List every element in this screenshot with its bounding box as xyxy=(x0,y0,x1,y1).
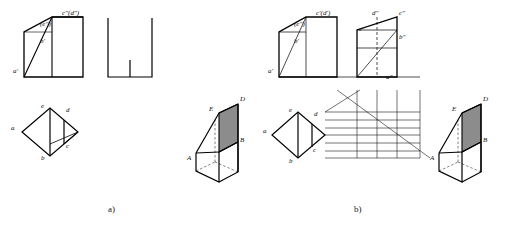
label-a-pic-E: E xyxy=(209,106,213,113)
label-a-front-a: a' xyxy=(13,68,18,75)
label-b-front-a: a' xyxy=(268,68,273,75)
label-b-side-d: d" xyxy=(372,10,378,17)
label-a-front-b: b' xyxy=(40,38,45,45)
label-b-front-cd: c'(d') xyxy=(316,10,330,17)
panel-b-top-view xyxy=(272,112,325,158)
label-b-top-a: a xyxy=(263,128,267,135)
panel-a-top-view xyxy=(22,108,78,156)
label-b-front-e: (e") xyxy=(294,21,305,28)
label-b-pic-A: A xyxy=(430,155,434,162)
label-b-side-b: b" xyxy=(399,34,405,41)
label-b-pic-D: D xyxy=(483,96,488,103)
label-a-top-d: d xyxy=(66,107,70,114)
label-b-side-a: a" xyxy=(386,74,392,81)
label-b-top-b: b xyxy=(289,158,293,165)
label-b-pic-B: B xyxy=(483,137,487,144)
caption-a: a) xyxy=(108,204,115,214)
label-a-front-e: (e") xyxy=(40,21,51,28)
label-a-front-cd: c"(d") xyxy=(62,10,79,17)
label-a-pic-A: A xyxy=(187,155,191,162)
panel-a-pictorial xyxy=(196,104,238,182)
label-b-side-e: e" xyxy=(359,26,365,33)
panel-a-middle-view xyxy=(108,18,152,77)
panel-b-pictorial xyxy=(439,104,481,182)
label-b-side-c: c" xyxy=(399,10,405,17)
label-a-top-c: c xyxy=(66,143,69,150)
label-b-top-c: c xyxy=(313,147,316,154)
panel-b-projection-lines xyxy=(325,90,430,158)
label-b-front-b: b' xyxy=(294,38,299,45)
label-a-pic-D: D xyxy=(240,96,245,103)
panel-a-front-view xyxy=(24,17,83,77)
panel-b-front-view xyxy=(279,17,337,77)
label-b-top-e: e xyxy=(289,107,292,114)
caption-b: b) xyxy=(354,204,362,214)
label-a-top-b: b xyxy=(41,155,45,162)
engineering-drawing-figure xyxy=(0,0,509,228)
label-b-pic-E: E xyxy=(452,106,456,113)
label-a-top-e: e xyxy=(41,103,44,110)
label-a-top-a: a xyxy=(11,125,15,132)
label-a-pic-B: B xyxy=(240,137,244,144)
label-b-top-d: d xyxy=(314,111,318,118)
